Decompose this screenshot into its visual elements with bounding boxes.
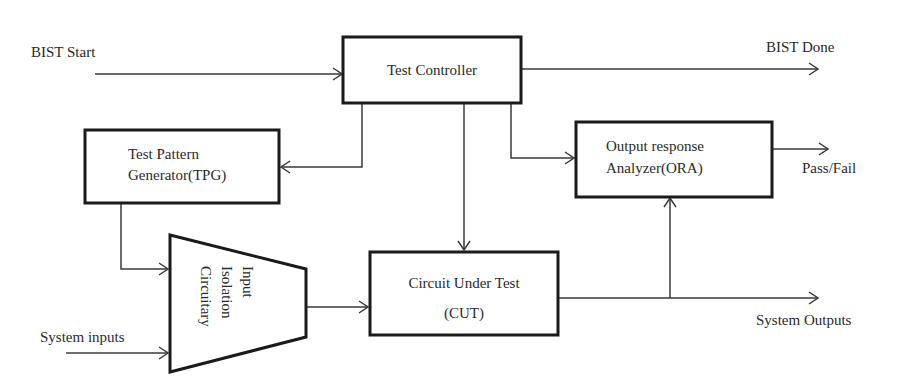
tc-to-ora-wire — [511, 104, 574, 158]
bist-done-label-visible: BIST Done — [766, 39, 835, 55]
pass-fail-label: Pass/Fail — [802, 160, 856, 176]
tpg-label-line2: Generator(TPG) — [128, 167, 226, 184]
tpg-to-isolation-wire — [121, 204, 168, 269]
bist-diagram: Test Controller Test Pattern Generator(T… — [0, 0, 904, 389]
tpg-label-line1: Test Pattern — [128, 146, 200, 162]
isolation-label-line1: Input — [240, 266, 256, 298]
tc-to-tpg-wire — [281, 104, 362, 167]
test-controller-label: Test Controller — [387, 62, 477, 78]
ora-label-line2: Analyzer(ORA) — [606, 160, 703, 177]
system-outputs-label: System Outputs — [756, 312, 852, 328]
system-inputs-label: System inputs — [40, 329, 125, 345]
tpg-block: Test Pattern Generator(TPG) — [85, 130, 279, 203]
cut-label-line2: (CUT) — [444, 305, 484, 322]
cut-label-line1: Circuit Under Test — [408, 275, 520, 291]
ora-label-line1: Output response — [606, 138, 704, 154]
test-controller-block: Test Controller — [343, 37, 521, 103]
cut-block: Circuit Under Test (CUT) — [370, 252, 558, 335]
input-isolation-block: Input Isolation Circuitary — [170, 235, 306, 372]
ora-block: Output response Analyzer(ORA) — [576, 122, 772, 197]
isolation-label-line2: Isolation — [219, 266, 235, 319]
bist-start-label: BIST Start — [31, 44, 96, 60]
isolation-label-line3: Circuitary — [198, 266, 214, 327]
